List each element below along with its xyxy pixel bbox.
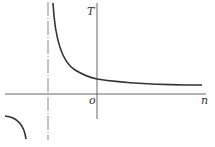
curve-upper-branch [53, 3, 202, 85]
graph-canvas: T o n [0, 0, 215, 147]
t-axis-label: T [87, 5, 96, 18]
n-axis-label: n [201, 94, 208, 107]
curve-lower-branch [5, 116, 26, 139]
origin-label: o [89, 94, 96, 107]
